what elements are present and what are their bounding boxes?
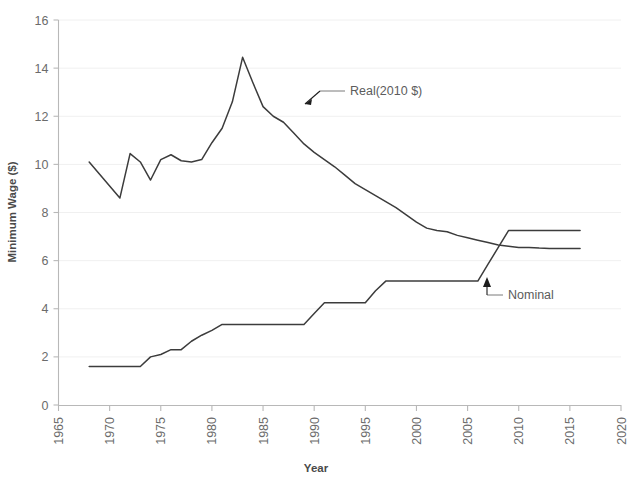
y-tick-label-0: 0 [42, 399, 49, 413]
x-tick-label-2005: 2005 [461, 417, 475, 445]
x-tick-label-1970: 1970 [103, 417, 117, 445]
y-tick-label-10: 10 [35, 158, 49, 172]
x-tick-label-1990: 1990 [308, 417, 322, 445]
minimum-wage-line-chart: 0246810121416 19651970197519801985199019… [0, 0, 633, 482]
x-tick-label-2015: 2015 [563, 417, 577, 445]
y-tick-label-4: 4 [42, 302, 49, 316]
y-tick-label-14: 14 [35, 62, 49, 76]
y-tick-label-16: 16 [35, 14, 49, 28]
y-tick-label-8: 8 [42, 206, 49, 220]
chart-background [0, 0, 633, 482]
x-tick-label-1965: 1965 [52, 417, 66, 445]
y-tick-label-6: 6 [42, 254, 49, 268]
chart-canvas: 0246810121416 19651970197519801985199019… [0, 0, 633, 482]
x-tick-label-2010: 2010 [512, 417, 526, 445]
y-tick-label-2: 2 [42, 350, 49, 364]
y-tick-label-12: 12 [35, 110, 49, 124]
x-tick-label-2000: 2000 [410, 417, 424, 445]
nominal-series-label: Nominal [508, 288, 554, 302]
x-tick-label-2020: 2020 [615, 417, 629, 445]
x-tick-label-1985: 1985 [257, 417, 271, 445]
x-tick-label-1975: 1975 [154, 417, 168, 445]
y-axis-title: Minimum Wage ($) [6, 161, 18, 262]
real-series-label: Real(2010 $) [350, 84, 422, 98]
x-axis-title: Year [304, 462, 329, 474]
x-tick-label-1995: 1995 [359, 417, 373, 445]
x-tick-label-1980: 1980 [205, 417, 219, 445]
